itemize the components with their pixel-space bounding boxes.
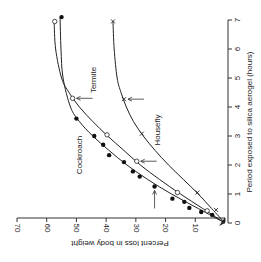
- cockroach-point: [152, 184, 156, 188]
- percent-tick-label: 30: [132, 224, 141, 233]
- cockroach-point: [92, 134, 96, 138]
- cockroach-point: [187, 206, 191, 210]
- label-cockroach: Cockroach: [75, 136, 84, 174]
- cockroach-point: [74, 116, 78, 120]
- series-curves: [54, 17, 225, 223]
- percent-tick-label: 60: [43, 224, 52, 233]
- termite-point: [105, 133, 109, 137]
- label-housefly: Housefly: [153, 114, 162, 145]
- hours-tick-label: 6: [233, 46, 242, 51]
- termite-point: [53, 19, 57, 23]
- cockroach-point: [101, 143, 105, 147]
- percent-tick-label: 20: [161, 224, 170, 233]
- series-markers: [53, 15, 219, 217]
- curve-cockroach: [60, 17, 225, 223]
- cockroach-point: [107, 153, 111, 157]
- axes: 0123456710203040506070: [13, 17, 242, 233]
- termite-point: [135, 159, 139, 163]
- cockroach-point: [122, 160, 126, 164]
- cockroach-point: [59, 15, 63, 19]
- percent-tick-label: 40: [102, 224, 111, 233]
- hours-tick-label: 1: [233, 191, 242, 196]
- percent-tick-label: 70: [13, 224, 22, 233]
- cockroach-point: [131, 169, 135, 173]
- hours-tick-label: 7: [233, 17, 242, 22]
- housefly-point: [140, 132, 144, 136]
- cockroach-point: [138, 174, 142, 178]
- silica-aerogel-weight-loss-chart: 0123456710203040506070 CockroachTermiteH…: [0, 0, 261, 262]
- cockroach-point: [170, 196, 174, 200]
- cockroach-point: [210, 213, 214, 217]
- hours-tick-label: 3: [233, 133, 242, 138]
- termite-point: [70, 96, 74, 100]
- housefly-point: [214, 208, 218, 212]
- y-axis-label: Percent loss in body weight: [71, 239, 169, 248]
- termite-point: [205, 209, 209, 213]
- percent-tick-label: 10: [191, 224, 200, 233]
- hours-tick-label: 2: [233, 162, 242, 167]
- hours-tick-label: 0: [233, 220, 242, 225]
- termite-point: [175, 190, 179, 194]
- percent-tick-label: 50: [72, 224, 81, 233]
- x-axis-label: Period exposed to silica aerogel (hours): [245, 51, 254, 192]
- cockroach-point: [199, 210, 203, 214]
- housefly-point: [195, 191, 199, 195]
- label-termite: Termite: [89, 66, 98, 93]
- hours-tick-label: 5: [233, 75, 242, 80]
- annotation-arrows: [77, 96, 157, 208]
- cockroach-point: [182, 200, 186, 204]
- hours-tick-label: 4: [233, 104, 242, 109]
